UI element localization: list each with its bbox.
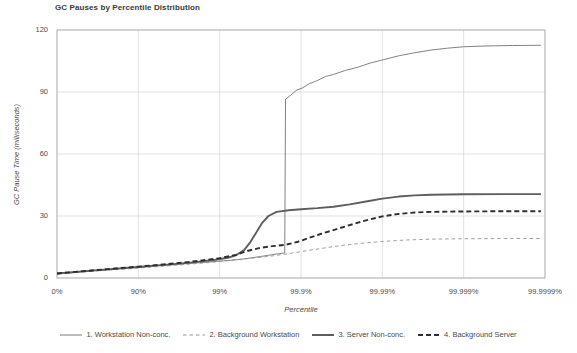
legend-swatch-2: [183, 331, 205, 339]
chart-legend: 1. Workstation Non-conc.2. Background Wo…: [0, 330, 577, 339]
legend-label-1: 1. Workstation Non-conc.: [86, 330, 170, 339]
grid-lines: [57, 30, 545, 278]
series-line-1: [57, 45, 541, 274]
legend-item-2[interactable]: 2. Background Workstation: [183, 330, 299, 339]
plot-area: [0, 0, 577, 353]
series-line-3: [57, 194, 541, 273]
legend-label-2: 2. Background Workstation: [209, 330, 299, 339]
legend-swatch-1: [60, 331, 82, 339]
series-line-4: [57, 211, 541, 273]
legend-swatch-4: [418, 331, 440, 339]
legend-swatch-3: [312, 331, 334, 339]
legend-item-3[interactable]: 3. Server Non-conc.: [312, 330, 405, 339]
gc-pause-percentile-chart: GC Pauses by Percentile Distribution GC …: [0, 0, 577, 353]
legend-item-4[interactable]: 4. Background Server: [418, 330, 517, 339]
legend-label-3: 3. Server Non-conc.: [338, 330, 405, 339]
legend-label-4: 4. Background Server: [444, 330, 517, 339]
legend-item-1[interactable]: 1. Workstation Non-conc.: [60, 330, 170, 339]
